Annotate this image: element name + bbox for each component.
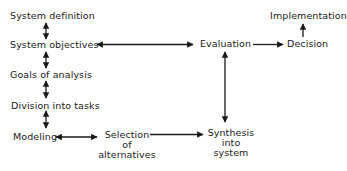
- node-goals-of-analysis: Goals of analysis: [10, 70, 92, 80]
- systems-analysis-diagram: System definition System objectives Goal…: [0, 0, 347, 171]
- node-division-into-tasks: Division into tasks: [11, 101, 100, 111]
- node-implementation: Implementation: [270, 11, 347, 21]
- node-selection-line3: alternatives: [98, 150, 156, 160]
- node-modeling: Modeling: [13, 132, 57, 142]
- node-system-objectives: System objectives: [10, 40, 98, 50]
- node-system-definition: System definition: [10, 11, 95, 21]
- node-evaluation: Evaluation: [200, 39, 251, 49]
- diagram-arrows: [0, 0, 347, 171]
- node-decision: Decision: [287, 39, 328, 49]
- node-synthesis-line3: system: [214, 148, 249, 158]
